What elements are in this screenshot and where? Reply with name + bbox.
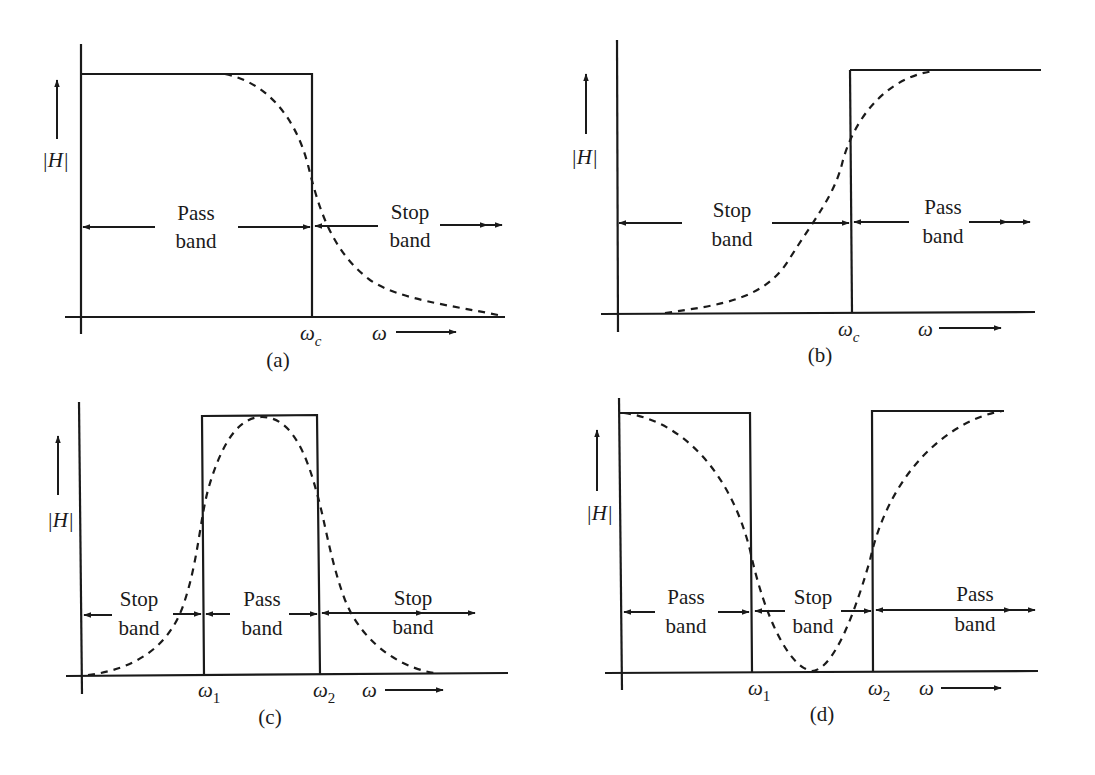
band-label-line2: band bbox=[923, 224, 964, 248]
band-label-line2: band bbox=[390, 228, 431, 252]
practical-response bbox=[665, 71, 935, 313]
band-label-line1: Pass bbox=[924, 195, 961, 219]
panel-caption: (a) bbox=[266, 348, 289, 372]
cutoff-label: ωc bbox=[838, 317, 860, 345]
y-axis bbox=[79, 402, 82, 694]
y-axis-label: |H| bbox=[42, 148, 69, 172]
band-label-line2: band bbox=[793, 614, 834, 638]
band-label-line1: Stop bbox=[391, 200, 430, 224]
band-label-line2: band bbox=[666, 614, 707, 638]
band-label-line2: band bbox=[119, 616, 160, 640]
band-label-line2: band bbox=[176, 229, 217, 253]
panel-caption: (b) bbox=[808, 343, 833, 367]
band-label-line2: band bbox=[955, 612, 996, 636]
panel-b-high-pass: |H| Stop band Pass band ωc ω (b) bbox=[571, 40, 1041, 367]
cutoff-label-2: ω2 bbox=[868, 676, 890, 704]
x-axis-label: ω bbox=[919, 676, 934, 700]
x-axis-label: ω bbox=[918, 317, 933, 341]
band-label-line1: Pass bbox=[667, 585, 704, 609]
band-label-line2: band bbox=[712, 227, 753, 251]
x-axis-label: ω bbox=[362, 678, 377, 702]
band-label-line1: Stop bbox=[713, 198, 752, 222]
x-axis-label: ω bbox=[372, 321, 387, 345]
band-label-line1: Stop bbox=[120, 587, 159, 611]
ideal-response bbox=[81, 74, 312, 317]
ideal-response-edge bbox=[850, 70, 852, 313]
y-axis-label: |H| bbox=[571, 145, 598, 169]
y-axis bbox=[617, 40, 618, 332]
panel-caption: (c) bbox=[258, 705, 281, 729]
y-axis-label: |H| bbox=[586, 501, 613, 525]
x-axis bbox=[66, 673, 508, 676]
band-label-line2: band bbox=[242, 616, 283, 640]
y-axis-label: |H| bbox=[47, 508, 74, 532]
band-label-line1: Stop bbox=[794, 585, 833, 609]
band-label-line1: Pass bbox=[243, 587, 280, 611]
band-label-line1: Stop bbox=[394, 586, 433, 610]
band-label-line1: Pass bbox=[956, 582, 993, 606]
filter-response-figure: |H| Pass band Stop band ωc ω (a) |H| St bbox=[0, 0, 1095, 775]
panel-caption: (d) bbox=[810, 702, 835, 726]
band-label-line1: Pass bbox=[177, 201, 214, 225]
y-axis bbox=[619, 398, 622, 690]
panel-a-low-pass: |H| Pass band Stop band ωc ω (a) bbox=[42, 44, 505, 372]
practical-response bbox=[225, 74, 503, 316]
band-label-line2: band bbox=[393, 615, 434, 639]
cutoff-label-1: ω1 bbox=[198, 678, 220, 706]
panel-c-band-pass: |H| Stop band Pass band Stop band ω1 ω2 … bbox=[47, 402, 508, 729]
x-axis bbox=[605, 671, 1038, 673]
cutoff-label-1: ω1 bbox=[748, 676, 770, 704]
panel-d-band-stop: |H| Pass band Stop band Pass band ω1 ω2 … bbox=[586, 398, 1038, 726]
cutoff-label: ωc bbox=[300, 321, 322, 349]
cutoff-label-2: ω2 bbox=[313, 678, 335, 706]
